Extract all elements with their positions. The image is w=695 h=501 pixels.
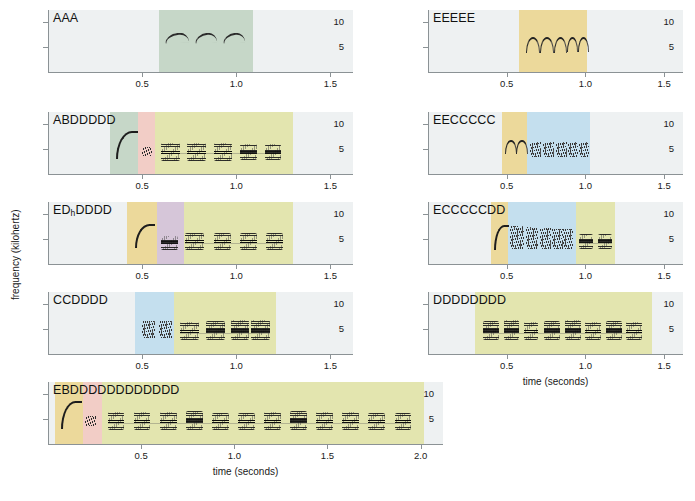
y-axis-tick-label: 10	[663, 209, 674, 219]
x-axis-tick-label: 1.0	[579, 361, 592, 371]
x-axis-line	[428, 174, 683, 175]
background-hiss-line	[185, 243, 283, 244]
syllable-region-d	[576, 202, 615, 264]
x-axis-tick-label: 0.5	[500, 79, 513, 89]
y-axis-tick-label: 10	[333, 119, 344, 129]
y-axis-tick-label: 10	[663, 17, 674, 27]
y-axis-line	[428, 292, 429, 354]
background-hiss-line	[579, 243, 612, 244]
panel-label: EDhDDDD	[53, 204, 112, 217]
panel-label: ABDDDDD	[53, 114, 116, 127]
x-axis-line	[428, 264, 683, 265]
panel-eeeee: 1050.51.01.5EEEEE	[428, 10, 683, 72]
syllable-region-c	[527, 112, 590, 174]
y-axis-tick-label: 5	[669, 42, 674, 52]
y-axis-tick-label: 5	[339, 324, 344, 334]
panel-label: DDDDDDDD	[433, 294, 506, 307]
x-axis-tick	[664, 265, 665, 269]
panel-eeccccc: 1050.51.01.5EECCCCC	[428, 112, 683, 174]
syllable-region-d	[155, 112, 292, 174]
x-axis-tick-label: 1.5	[658, 271, 671, 281]
x-axis-tick-label: 1.0	[579, 271, 592, 281]
x-axis-tick	[664, 175, 665, 179]
y-axis-tick	[43, 22, 48, 23]
y-axis-tick	[423, 124, 428, 125]
syllable-region-e	[127, 202, 157, 264]
x-axis-tick	[142, 265, 143, 269]
x-axis-tick-label: 1.0	[228, 451, 241, 461]
y-axis-tick	[423, 329, 428, 330]
y-axis-caption: frequency (kilohertz)	[10, 209, 21, 300]
x-axis-tick	[330, 265, 331, 269]
x-axis-tick	[507, 265, 508, 269]
x-axis-tick-label: 0.5	[500, 181, 513, 191]
y-axis-line	[428, 202, 429, 264]
y-axis-tick	[43, 419, 48, 420]
x-axis-tick	[330, 73, 331, 77]
x-axis-tick	[141, 445, 142, 449]
panel-ccdddd: 1050.51.01.5CCDDDD	[48, 292, 353, 354]
y-axis-tick-label: 5	[669, 144, 674, 154]
y-axis-line	[428, 10, 429, 72]
background-hiss-line	[180, 333, 270, 334]
x-axis-tick-label: 0.5	[500, 361, 513, 371]
x-axis-tick-label: 0.5	[500, 271, 513, 281]
x-axis-tick-label: 0.5	[136, 271, 149, 281]
y-axis-tick	[43, 124, 48, 125]
y-axis-line	[428, 112, 429, 174]
x-axis-tick	[330, 175, 331, 179]
panel-label: EEEEE	[433, 12, 475, 25]
y-axis-tick	[43, 329, 48, 330]
panel-label: EBDDDDDDDDDDDD	[53, 384, 179, 397]
background-hiss-line	[108, 423, 412, 424]
x-axis-tick-label: 1.5	[658, 79, 671, 89]
x-axis-line	[48, 264, 353, 265]
panel-label: ECCCCCDD	[433, 204, 505, 217]
x-axis-tick-label: 1.5	[324, 79, 337, 89]
y-axis-tick	[423, 239, 428, 240]
panel-label: CCDDDD	[53, 294, 108, 307]
x-axis-tick	[421, 445, 422, 449]
syllable-region-e	[502, 112, 527, 174]
x-axis-caption-right: time (seconds)	[523, 376, 589, 387]
y-axis-tick-label: 5	[429, 414, 434, 424]
y-axis-tick	[43, 394, 48, 395]
x-axis-tick-label: 1.5	[324, 361, 337, 371]
x-axis-tick-label: 2.0	[414, 451, 427, 461]
y-axis-tick	[43, 214, 48, 215]
x-axis-tick-label: 1.0	[230, 79, 243, 89]
x-axis-tick	[664, 73, 665, 77]
x-axis-tick-label: 1.5	[658, 361, 671, 371]
x-axis-tick	[142, 175, 143, 179]
y-axis-tick	[423, 149, 428, 150]
y-axis-line	[48, 292, 49, 354]
x-axis-tick-label: 0.5	[136, 79, 149, 89]
x-axis-tick	[507, 175, 508, 179]
y-axis-tick-label: 10	[333, 209, 344, 219]
panel-label-subscript: h	[71, 208, 76, 218]
y-axis-tick	[423, 304, 428, 305]
x-axis-tick	[142, 73, 143, 77]
x-axis-tick	[585, 355, 586, 359]
syllable-region-a	[159, 10, 253, 72]
x-axis-tick	[330, 355, 331, 359]
x-axis-tick	[585, 73, 586, 77]
x-axis-tick	[507, 355, 508, 359]
y-axis-tick	[43, 304, 48, 305]
y-axis-line	[48, 112, 49, 174]
syllable-region-c	[135, 292, 175, 354]
background-hiss-line	[161, 153, 281, 154]
syllable-region-d	[184, 202, 293, 264]
x-axis-tick	[507, 73, 508, 77]
x-axis-tick	[664, 355, 665, 359]
panel-eccccdd: 1050.51.01.5ECCCCCDD	[428, 202, 683, 264]
background-hiss-line	[483, 333, 642, 334]
x-axis-tick	[234, 445, 235, 449]
x-axis-tick	[142, 355, 143, 359]
x-axis-tick-label: 1.0	[230, 271, 243, 281]
x-axis-tick	[236, 175, 237, 179]
y-axis-tick	[43, 239, 48, 240]
x-axis-line	[48, 174, 353, 175]
syllable-region-e	[519, 10, 587, 72]
x-axis-tick	[236, 355, 237, 359]
